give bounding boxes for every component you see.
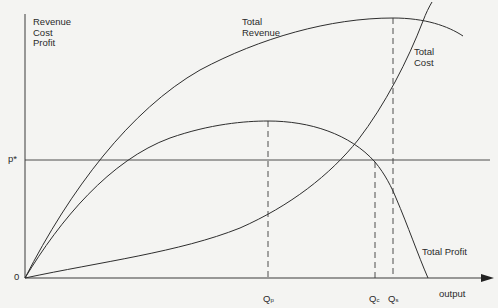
x-axis-label: output — [439, 289, 465, 300]
x-axis-arrow-icon — [481, 274, 494, 282]
qc-subscript: c — [376, 297, 379, 303]
total-revenue-curve — [25, 18, 463, 278]
qc-tick-label: Qc — [369, 283, 379, 305]
qp-subscript: p — [270, 297, 273, 303]
qs-subscript: s — [395, 297, 398, 303]
total-cost-label: Total Cost — [414, 47, 434, 68]
total-profit-label: Total Profit — [422, 247, 467, 258]
pstar-label: p* — [8, 154, 17, 165]
qp-tick-label: Qp — [263, 283, 274, 305]
total-cost-curve — [25, 2, 432, 278]
origin-label: 0 — [14, 272, 19, 283]
total-profit-curve — [25, 121, 428, 278]
y-axis-label: Revenue Cost Profit — [33, 17, 71, 49]
total-revenue-label: Total Revenue — [242, 17, 280, 38]
qs-tick-label: Qs — [388, 283, 398, 305]
